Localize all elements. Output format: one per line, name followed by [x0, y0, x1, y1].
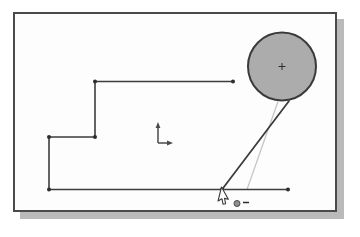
tangent-line-in-progress[interactable]	[222, 101, 289, 190]
sketch-drawing[interactable]	[0, 0, 360, 237]
origin-axes-icon	[156, 122, 173, 145]
vertex-point[interactable]	[93, 80, 97, 84]
vertex-point[interactable]	[93, 135, 97, 139]
vertex-point[interactable]	[231, 80, 235, 84]
cad-sketch-viewport	[0, 0, 360, 237]
vertex-point[interactable]	[286, 188, 290, 192]
snap-indicator-icon	[234, 201, 249, 207]
vertex-point[interactable]	[47, 135, 51, 139]
guide-line[interactable]	[247, 102, 278, 190]
vertex-point[interactable]	[47, 188, 51, 192]
